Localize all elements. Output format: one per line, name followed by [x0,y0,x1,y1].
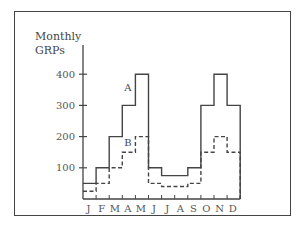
x-tick-label: A [123,203,132,214]
x-tick-label: J [151,203,156,214]
x-tick-label: D [229,203,237,214]
x-tick-label: N [215,203,224,214]
x-tick-label: J [164,203,169,214]
x-tick-label: S [190,203,197,214]
y-tick-label: 100 [56,162,75,173]
x-tick-label: M [110,203,120,214]
x-tick-label: O [202,203,210,214]
x-tick-label: A [176,203,185,214]
y-tick-label: 200 [56,131,75,142]
step-chart: 100200300400JFMAMJJASONDAB [0,0,301,238]
series-b-label: B [124,137,131,148]
x-tick-label: J [86,203,91,214]
y-tick-label: 300 [56,100,75,111]
x-tick-label: F [98,203,105,214]
series-a-label: A [123,82,132,93]
x-tick-label: M [136,203,146,214]
y-tick-label: 400 [56,69,75,80]
